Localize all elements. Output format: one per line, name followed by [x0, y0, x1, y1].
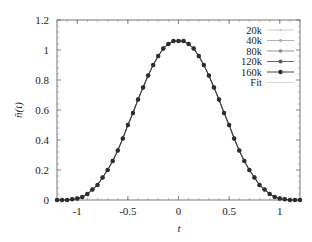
data-point: [65, 198, 69, 202]
data-point: [161, 46, 165, 50]
data-point: [171, 39, 175, 43]
data-point: [136, 97, 140, 101]
legend-label: 120k: [241, 56, 263, 67]
legend-marker-icon: [278, 70, 282, 74]
data-point: [272, 195, 276, 199]
data-point: [126, 123, 130, 127]
data-point: [252, 175, 256, 179]
data-point: [141, 85, 145, 89]
data-point: [293, 198, 297, 202]
legend-label: 20k: [246, 25, 263, 36]
data-point: [247, 168, 251, 172]
data-point: [95, 183, 99, 187]
series-20k: [56, 40, 301, 201]
legend-label: 160k: [241, 67, 263, 78]
x-axis: -1-0.500.51: [57, 20, 300, 217]
legend-marker-icon: [279, 29, 281, 31]
y-tick-label: 0.4: [35, 134, 49, 146]
data-point: [222, 111, 226, 115]
x-tick-label: 0: [176, 205, 182, 217]
data-point: [217, 97, 221, 101]
legend-marker-icon: [279, 49, 283, 53]
data-point: [100, 175, 104, 179]
y-tick-label: 0: [44, 194, 50, 206]
data-point: [278, 196, 282, 200]
y-tick-label: 1.2: [35, 14, 49, 26]
legend-marker-icon: [279, 60, 283, 64]
legend-label: 40k: [246, 35, 263, 46]
plot-series: [55, 39, 302, 202]
x-axis-label: t: [177, 222, 181, 234]
data-point: [202, 63, 206, 67]
data-point: [181, 39, 185, 43]
data-point: [191, 46, 195, 50]
legend-item-40k: 40k: [246, 35, 294, 46]
data-point: [70, 197, 74, 201]
legend-item-80k: 80k: [246, 46, 294, 57]
series-160k: [55, 39, 302, 202]
legend-item-120k: 120k: [241, 56, 294, 67]
data-point: [60, 198, 64, 202]
y-tick-label: 1: [44, 44, 50, 56]
series-fit: [57, 41, 300, 200]
data-point: [110, 159, 114, 163]
x-tick-label: -0.5: [119, 205, 137, 217]
data-point: [288, 198, 292, 202]
legend-marker-icon: [279, 39, 282, 42]
data-point: [283, 197, 287, 201]
y-tick-label: 0.8: [35, 74, 49, 86]
y-tick-label: 0.6: [35, 104, 49, 116]
legend-label: Fit: [250, 77, 262, 88]
data-point: [298, 198, 302, 202]
data-point: [166, 42, 170, 46]
data-point: [116, 148, 120, 152]
data-point: [212, 85, 216, 89]
legend-item-20k: 20k: [246, 25, 294, 36]
data-point: [151, 63, 155, 67]
data-point: [90, 187, 94, 191]
data-point: [131, 111, 135, 115]
data-point: [156, 54, 160, 58]
series-80k: [55, 39, 302, 202]
chart: 00.20.40.60.811.2 -1-0.500.51 20k40k80k1…: [0, 0, 312, 242]
data-point: [257, 183, 261, 187]
y-tick-label: 0.2: [35, 164, 49, 176]
data-point: [105, 168, 109, 172]
series-40k: [56, 40, 302, 202]
series-120k: [55, 39, 302, 202]
data-point: [237, 148, 241, 152]
data-point: [121, 136, 125, 140]
data-point: [75, 196, 79, 200]
data-point: [85, 192, 89, 196]
data-point: [227, 123, 231, 127]
x-tick-label: 0.5: [222, 205, 236, 217]
data-point: [262, 187, 266, 191]
data-point: [267, 192, 271, 196]
plot-frame: [57, 20, 300, 200]
legend: 20k40k80k120k160kFit: [241, 25, 294, 89]
x-tick-label: 1: [277, 205, 283, 217]
legend-label: 80k: [246, 46, 263, 57]
legend-item-fit: Fit: [250, 77, 294, 88]
data-point: [207, 73, 211, 77]
y-axis-label: n̄(t): [12, 102, 25, 118]
data-point: [197, 54, 201, 58]
data-point: [80, 195, 84, 199]
data-point: [55, 198, 59, 202]
legend-item-160k: 160k: [241, 67, 294, 78]
data-point: [146, 73, 150, 77]
data-point: [186, 42, 190, 46]
data-point: [242, 159, 246, 163]
x-tick-label: -1: [73, 205, 82, 217]
data-point: [176, 39, 180, 43]
data-point: [232, 136, 236, 140]
